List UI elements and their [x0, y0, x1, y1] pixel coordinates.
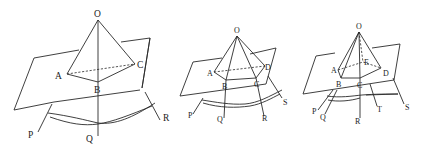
label-s-2: S	[283, 98, 287, 107]
curve-below-3	[327, 94, 398, 97]
label-o: O	[94, 9, 101, 19]
label-s-3: S	[405, 103, 409, 112]
line-p-3	[318, 90, 333, 110]
pyramid-2-hidden-edge	[214, 66, 265, 72]
label-o-3: O	[356, 22, 362, 31]
label-q-2: Q	[217, 115, 223, 124]
curve-below-1b	[50, 106, 152, 125]
label-r-2: R	[262, 114, 268, 123]
label-b: B	[94, 85, 100, 95]
label-d-2: D	[265, 63, 271, 72]
label-c-3: C	[357, 81, 362, 90]
label-a-2: A	[207, 69, 213, 78]
label-q: Q	[86, 134, 93, 144]
label-d-3: D	[383, 69, 389, 78]
label-q-3: Q	[320, 113, 326, 122]
label-p-2: P	[188, 111, 193, 120]
label-t-3: T	[377, 105, 382, 114]
curve-below-1	[48, 103, 155, 123]
label-b-2: B	[222, 82, 227, 91]
label-a: A	[55, 71, 62, 81]
label-a-3: A	[331, 66, 337, 75]
label-b-3: B	[336, 80, 341, 89]
label-p-3: P	[312, 107, 317, 116]
label-c: C	[137, 60, 143, 70]
label-c-2: C	[254, 80, 259, 89]
curve-below-2b	[203, 94, 280, 107]
figure-2-quadrilateral-pyramid: O A B C D P Q R S	[180, 26, 287, 124]
label-r-3: R	[355, 117, 361, 126]
line-s-3	[366, 78, 404, 104]
label-p: P	[28, 130, 33, 140]
figure-1-triangular-pyramid: O A B C P Q R	[14, 9, 170, 144]
pyramid-1-edges	[67, 20, 135, 82]
plane-1	[14, 38, 150, 110]
figure-3-pentagonal-pyramid: O A B C D E P Q R T S	[303, 22, 409, 126]
label-e-3: E	[364, 58, 369, 67]
diagram-canvas: O A B C P Q R O A B C D P Q R S	[0, 0, 421, 149]
curve-below-2	[202, 90, 282, 104]
line-p-2	[193, 98, 203, 114]
pyramid-3-edges	[338, 32, 381, 78]
line-q-3	[325, 90, 337, 114]
line-s-2	[268, 76, 282, 98]
label-r: R	[163, 113, 170, 123]
line-r	[145, 92, 160, 120]
label-o-2: O	[234, 26, 240, 35]
line-p	[38, 104, 52, 132]
